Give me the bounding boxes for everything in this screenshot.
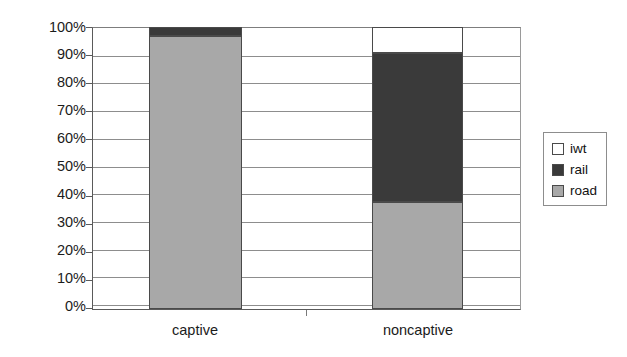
legend-label: road bbox=[570, 184, 597, 198]
y-axis-tick-label: 30% bbox=[0, 214, 86, 230]
y-axis-tick-label: 100% bbox=[0, 19, 86, 35]
y-axis-tick-label: 50% bbox=[0, 158, 86, 174]
legend-swatch-icon bbox=[552, 164, 564, 176]
legend-item-rail[interactable]: rail bbox=[552, 162, 588, 178]
bar-segment-iwt[interactable] bbox=[372, 27, 463, 52]
bar-captive[interactable] bbox=[149, 27, 242, 309]
plot-area bbox=[92, 27, 521, 310]
y-axis-tick-label: 40% bbox=[0, 186, 86, 202]
x-axis-tick-mark bbox=[306, 310, 307, 316]
stacked-bar-chart: 100% 90% 80% 70% 60% 50% 40% 30% 20% 10%… bbox=[0, 0, 627, 357]
y-axis-tick-label: 70% bbox=[0, 102, 86, 118]
bar-segment-road[interactable] bbox=[372, 202, 463, 309]
legend-item-iwt[interactable]: iwt bbox=[552, 141, 587, 157]
y-axis-tick-label: 90% bbox=[0, 46, 86, 62]
x-axis-label-captive: captive bbox=[128, 322, 262, 338]
legend: iwt rail road bbox=[543, 132, 607, 206]
legend-swatch-icon bbox=[552, 143, 564, 155]
bar-segment-road[interactable] bbox=[149, 36, 242, 309]
y-axis-tick-label: 60% bbox=[0, 130, 86, 146]
y-axis-tick-label: 80% bbox=[0, 74, 86, 90]
bar-segment-rail[interactable] bbox=[372, 53, 463, 202]
legend-item-road[interactable]: road bbox=[552, 183, 597, 199]
y-axis-tick-label: 10% bbox=[0, 270, 86, 286]
legend-label: iwt bbox=[570, 142, 587, 156]
x-axis-label-noncaptive: noncaptive bbox=[348, 322, 488, 338]
bar-noncaptive[interactable] bbox=[372, 27, 463, 309]
bar-segment-rail[interactable] bbox=[149, 27, 242, 35]
legend-label: rail bbox=[570, 163, 588, 177]
y-axis-tick-label: 0% bbox=[0, 298, 86, 314]
legend-swatch-icon bbox=[552, 185, 564, 197]
y-axis-tick-label: 20% bbox=[0, 242, 86, 258]
